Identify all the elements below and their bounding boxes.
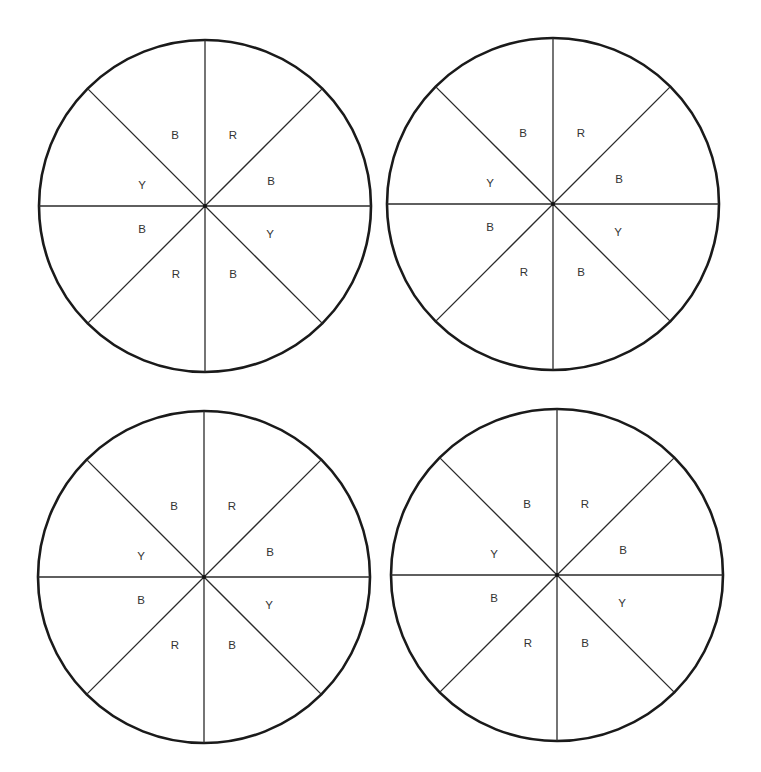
- spinner-hub: [555, 573, 559, 577]
- sector-label: B: [228, 639, 236, 651]
- sector-label: B: [171, 129, 179, 141]
- spinner-hub: [202, 575, 206, 579]
- spinner: RBYBRBYB: [391, 409, 723, 741]
- sector-label: Y: [618, 597, 626, 609]
- sector-label: R: [171, 639, 179, 651]
- spinner: RBYBRBYB: [387, 38, 719, 370]
- sector-label: Y: [137, 550, 145, 562]
- sector-label: B: [490, 592, 498, 604]
- sector-label: B: [615, 173, 623, 185]
- sector-label: Y: [138, 179, 146, 191]
- sector-label: Y: [486, 177, 494, 189]
- spinner: RBYBRBYB: [38, 411, 370, 743]
- sector-label: B: [137, 594, 145, 606]
- sector-label: B: [170, 500, 178, 512]
- sector-label: B: [486, 221, 494, 233]
- sector-label: B: [619, 544, 627, 556]
- spinners-diagram: RBYBRBYBRBYBRBYBRBYBRBYBRBYBRBYB: [0, 0, 761, 772]
- sector-label: B: [519, 127, 527, 139]
- spinner-hub: [551, 202, 555, 206]
- sector-label: R: [229, 129, 237, 141]
- sector-label: R: [172, 268, 180, 280]
- sector-label: Y: [614, 226, 622, 238]
- sector-label: R: [524, 637, 532, 649]
- sector-label: R: [228, 500, 236, 512]
- spinner-hub: [203, 204, 207, 208]
- sector-label: Y: [490, 548, 498, 560]
- sector-label: B: [138, 223, 146, 235]
- sector-label: R: [581, 498, 589, 510]
- sector-label: R: [577, 127, 585, 139]
- sector-label: R: [520, 266, 528, 278]
- spinner: RBYBRBYB: [39, 40, 371, 372]
- sector-label: B: [267, 175, 275, 187]
- sector-label: Y: [265, 599, 273, 611]
- sector-label: B: [523, 498, 531, 510]
- sector-label: B: [229, 268, 237, 280]
- sector-label: Y: [266, 228, 274, 240]
- sector-label: B: [581, 637, 589, 649]
- sector-label: B: [577, 266, 585, 278]
- sector-label: B: [266, 546, 274, 558]
